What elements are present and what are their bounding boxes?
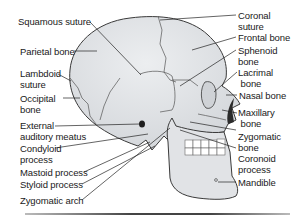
label-coronal-suture: Coronal suture	[238, 10, 271, 32]
label-mastoid-process: Mastoid process	[20, 167, 88, 178]
label-squamous-suture: Squamous suture	[18, 16, 91, 27]
orbit-cavity	[201, 82, 216, 109]
label-external-auditory-meatus: External auditory meatus	[20, 120, 86, 142]
label-lacrimal-bone: Lacrimal bone	[238, 67, 273, 89]
label-sphenoid-bone: Sphenoid bone	[238, 45, 277, 67]
label-parietal-bone: Parietal bone	[20, 46, 75, 57]
label-zygomatic-bone: Zygomatic bone	[238, 131, 281, 153]
cranium-shape	[70, 17, 240, 150]
teeth	[185, 139, 225, 155]
bottom-divider	[25, 213, 290, 215]
label-nasal-bone: Nasal bone	[239, 90, 286, 101]
label-styloid-process: Styloid process	[20, 179, 83, 190]
label-occipital-bone: Occipital bone	[20, 93, 56, 115]
label-coronoid-process: Coronoid process	[238, 153, 276, 175]
label-mandible: Mandible	[238, 177, 276, 188]
label-frontal-bone: Frontal bone	[238, 32, 290, 43]
label-lambdoid-suture: Lambdoid suture	[20, 68, 61, 90]
label-condyloid-process: Condyloid process	[20, 143, 61, 165]
label-zygomatic-arch: Zygomatic arch	[20, 195, 84, 206]
label-maxillary-bone: Maxillary bone	[238, 107, 275, 129]
